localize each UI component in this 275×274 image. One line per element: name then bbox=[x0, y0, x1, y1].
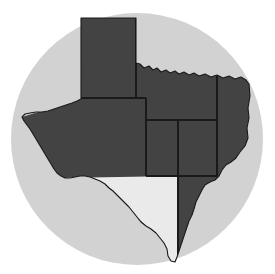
map-svg-canvas bbox=[0, 0, 275, 274]
texas-region-map-figure bbox=[0, 0, 275, 274]
